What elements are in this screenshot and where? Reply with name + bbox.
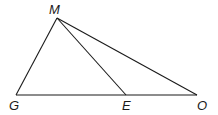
label-o: O (197, 98, 207, 113)
label-g: G (9, 98, 19, 113)
segment-mo (57, 18, 197, 95)
label-m: M (49, 2, 60, 17)
segment-mg (16, 18, 57, 95)
segment-me (57, 18, 126, 95)
triangle-diagram: M G E O (0, 0, 218, 115)
label-e: E (122, 98, 131, 113)
